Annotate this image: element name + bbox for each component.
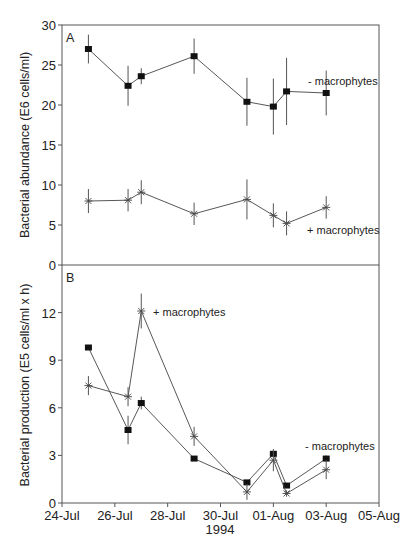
- x-tick-label: 05-Aug: [358, 508, 400, 523]
- y-tick-label: 9: [49, 353, 56, 368]
- annotation-b-minus-macrophytes: - macrophytes: [305, 440, 375, 452]
- series-line: [88, 192, 326, 223]
- annotation-a-plus-macrophytes: + macrophytes: [307, 224, 380, 236]
- panel-b-label: B: [66, 271, 74, 285]
- panel-b-y-axis: 036912: [42, 306, 62, 511]
- y-tick-label: 10: [42, 178, 56, 193]
- y-tick-label: 0: [49, 258, 56, 273]
- data-point-square: [138, 73, 145, 79]
- x-axis-year-label: 1994: [206, 522, 235, 537]
- x-tick-label: 03-Aug: [305, 508, 347, 523]
- data-point-square: [125, 83, 132, 89]
- x-axis: 24-Jul26-Jul28-Jul30-Jul01-Aug03-Aug05-A…: [44, 503, 400, 523]
- series-line: [88, 49, 326, 107]
- y-tick-label: 12: [42, 306, 56, 321]
- y-tick-label: 20: [42, 98, 56, 113]
- y-tick-label: 5: [49, 218, 56, 233]
- x-tick-label: 30-Jul: [203, 508, 239, 523]
- y-tick-label: 15: [42, 138, 56, 153]
- panel-a: A 051015202530 Bacterial abundance (E6 c…: [18, 18, 380, 273]
- data-point-square: [243, 99, 250, 105]
- annotation-a-minus-macrophytes: - macrophytes: [308, 75, 378, 87]
- panel-b: B 036912 24-Jul26-Jul28-Jul30-Jul01-Aug0…: [18, 265, 400, 537]
- panel-a-plot: [84, 35, 330, 236]
- data-point-square: [85, 345, 92, 351]
- data-point-square: [191, 456, 198, 462]
- panel-a-y-label: Bacterial abundance (E6 cells/ml): [18, 52, 32, 238]
- panel-b-plot: [84, 294, 330, 500]
- panel-b-y-label: Bacterial production (E5 cells/ml x h): [18, 284, 32, 487]
- data-point-square: [323, 90, 330, 96]
- x-tick-label: 26-Jul: [97, 508, 133, 523]
- annotation-b-plus-macrophytes: + macrophytes: [153, 306, 226, 318]
- y-tick-label: 3: [49, 448, 56, 463]
- data-point-square: [283, 88, 290, 94]
- data-point-square: [138, 400, 145, 406]
- data-point-square: [191, 53, 198, 59]
- y-tick-label: 6: [49, 401, 56, 416]
- panel-a-y-axis: 051015202530: [42, 18, 62, 273]
- x-tick-label: 24-Jul: [44, 508, 80, 523]
- x-tick-label: 01-Aug: [252, 508, 294, 523]
- y-tick-label: 30: [42, 18, 56, 33]
- series-line: [88, 311, 326, 493]
- panel-a-label: A: [66, 31, 75, 45]
- figure: A 051015202530 Bacterial abundance (E6 c…: [0, 0, 419, 552]
- data-point-square: [125, 427, 132, 433]
- data-point-square: [270, 104, 277, 110]
- y-tick-label: 25: [42, 58, 56, 73]
- x-tick-label: 28-Jul: [150, 508, 186, 523]
- data-point-square: [85, 46, 92, 52]
- series-line: [88, 348, 326, 486]
